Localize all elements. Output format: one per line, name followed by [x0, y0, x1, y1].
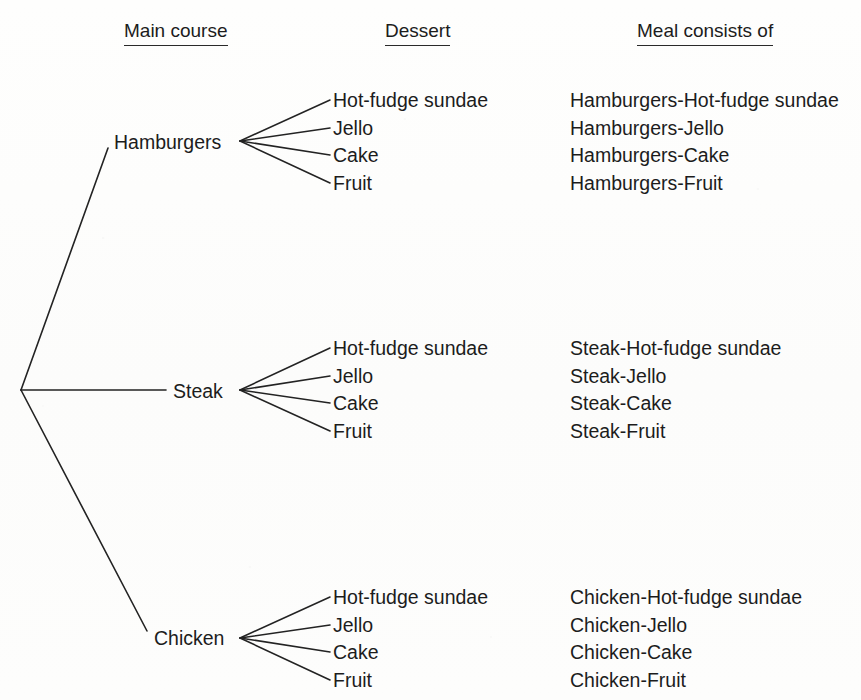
dessert-node-label: Cake	[333, 392, 379, 414]
meal-outcome-label: Chicken-Jello	[570, 614, 687, 636]
meal-outcome-label: Steak-Cake	[570, 392, 672, 414]
edge-root-to-main-course	[21, 390, 147, 631]
dessert-node-label: Hot-fudge sundae	[333, 586, 488, 608]
main-course-node-label: Steak	[173, 380, 223, 402]
meal-outcome-label: Hamburgers-Cake	[570, 144, 729, 166]
main-course-node-label: Hamburgers	[114, 131, 221, 153]
column-header: Dessert	[385, 20, 450, 46]
dessert-node-label: Jello	[333, 365, 373, 387]
meal-outcome-label: Chicken-Hot-fudge sundae	[570, 586, 802, 608]
meal-outcome-label: Steak-Fruit	[570, 420, 665, 442]
meal-outcome-label: Hamburgers-Jello	[570, 117, 724, 139]
column-header: Meal consists of	[637, 20, 773, 46]
edge-root-to-main-course	[21, 148, 108, 390]
dessert-node-label: Hot-fudge sundae	[333, 89, 488, 111]
dessert-node-label: Jello	[333, 614, 373, 636]
meal-outcome-label: Steak-Hot-fudge sundae	[570, 337, 781, 359]
meal-outcome-label: Chicken-Cake	[570, 641, 692, 663]
dessert-node-label: Fruit	[333, 420, 372, 442]
meal-outcome-label: Hamburgers-Hot-fudge sundae	[570, 89, 839, 111]
meal-outcome-label: Steak-Jello	[570, 365, 666, 387]
dessert-node-label: Cake	[333, 641, 379, 663]
meal-outcome-label: Hamburgers-Fruit	[570, 172, 723, 194]
main-course-node-label: Chicken	[154, 627, 224, 649]
meal-outcome-label: Chicken-Fruit	[570, 669, 686, 691]
column-header: Main course	[124, 20, 228, 46]
tree-diagram: Main courseDessertMeal consists of Hambu…	[0, 0, 861, 700]
dessert-node-label: Hot-fudge sundae	[333, 337, 488, 359]
dessert-node-label: Cake	[333, 144, 379, 166]
dessert-node-label: Fruit	[333, 172, 372, 194]
dessert-node-label: Fruit	[333, 669, 372, 691]
dessert-node-label: Jello	[333, 117, 373, 139]
